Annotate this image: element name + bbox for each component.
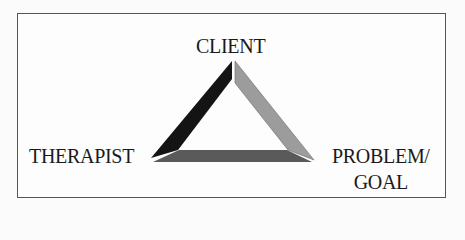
- node-problem-label: PROBLEM/: [332, 145, 430, 167]
- therapist-client-edge: [151, 61, 232, 158]
- node-client: CLIENT: [196, 35, 265, 57]
- client-problem-edge: [235, 61, 314, 160]
- node-problem-goal: PROBLEM/ GOAL: [332, 145, 430, 193]
- node-therapist: THERAPIST: [29, 145, 134, 167]
- node-goal-label: GOAL: [332, 171, 430, 193]
- therapist-problem-edge: [153, 150, 312, 162]
